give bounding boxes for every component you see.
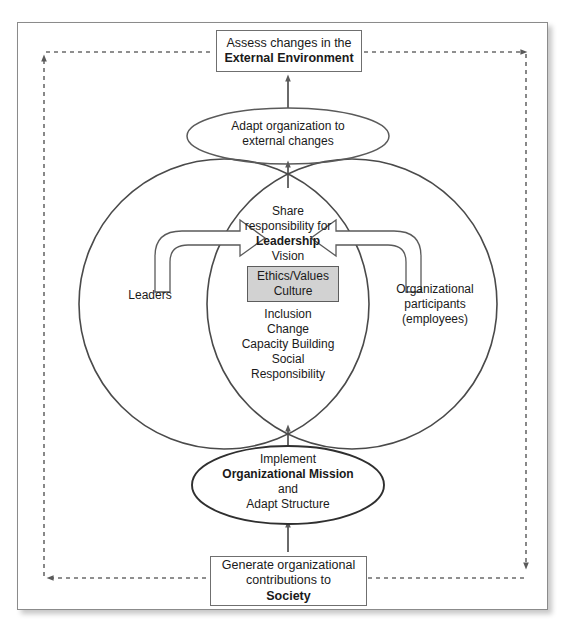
venn-center-top-text: Share responsibility for Leadership Visi… bbox=[221, 204, 355, 264]
society-line1: Generate organizational bbox=[222, 558, 355, 573]
feedback-loop-left bbox=[44, 52, 212, 578]
venn-label-participants: Organizational participants (employees) bbox=[375, 282, 495, 327]
venn-label-leaders: Leaders bbox=[105, 288, 195, 303]
ethics-line1: Ethics/Values bbox=[257, 269, 329, 284]
participants-line1: Organizational bbox=[375, 282, 495, 297]
adapt-line1: Adapt organization to bbox=[193, 119, 383, 134]
mission-line2: Organizational Mission bbox=[198, 467, 378, 482]
adapt-line2: external changes bbox=[193, 134, 383, 149]
external-environment-line2: External Environment bbox=[224, 51, 353, 66]
node-organizational-mission: Implement Organizational Mission and Ada… bbox=[198, 452, 378, 512]
center-bottom-line4: Social bbox=[215, 352, 361, 367]
participants-line2: participants bbox=[375, 297, 495, 312]
center-top-line2: responsibility for bbox=[221, 219, 355, 234]
society-line3: Society bbox=[266, 589, 310, 604]
center-top-line1: Share bbox=[221, 204, 355, 219]
node-society: Generate organizational contributions to… bbox=[210, 556, 367, 606]
center-bottom-line1: Inclusion bbox=[215, 307, 361, 322]
leaders-text: Leaders bbox=[105, 288, 195, 303]
venn-circle-leaders bbox=[79, 159, 369, 449]
node-adapt-organization: Adapt organization to external changes bbox=[193, 119, 383, 149]
mission-line3: and bbox=[198, 482, 378, 497]
mission-line1: Implement bbox=[198, 452, 378, 467]
center-bottom-line3: Capacity Building bbox=[215, 337, 361, 352]
diagram-canvas: Assess changes in the External Environme… bbox=[0, 0, 576, 633]
center-top-line3: Leadership bbox=[221, 234, 355, 249]
node-external-environment: Assess changes in the External Environme… bbox=[216, 30, 362, 72]
node-ethics-values-culture: Ethics/Values Culture bbox=[247, 266, 339, 302]
ethics-line2: Culture bbox=[274, 284, 313, 299]
center-bottom-line2: Change bbox=[215, 322, 361, 337]
external-environment-line1: Assess changes in the bbox=[226, 36, 351, 51]
venn-center-bottom-text: Inclusion Change Capacity Building Socia… bbox=[215, 307, 361, 382]
mission-line4: Adapt Structure bbox=[198, 497, 378, 512]
center-top-line4: Vision bbox=[221, 249, 355, 264]
participants-line3: (employees) bbox=[375, 312, 495, 327]
center-bottom-line5: Responsibility bbox=[215, 367, 361, 382]
society-line2: contributions to bbox=[246, 573, 331, 588]
